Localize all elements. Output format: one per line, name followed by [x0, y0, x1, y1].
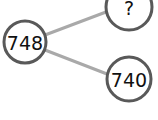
part-node-unknown: ? [106, 0, 152, 30]
connector-line-bottom [45, 50, 107, 74]
part-whole-diagram: 748 ? 740 [0, 0, 158, 120]
connector-line-top [45, 12, 106, 35]
part-value-unknown: ? [124, 0, 134, 19]
whole-value: 748 [7, 32, 43, 54]
part-node-known: 740 [107, 57, 151, 101]
whole-node: 748 [4, 21, 46, 63]
part-value-known: 740 [111, 69, 147, 91]
